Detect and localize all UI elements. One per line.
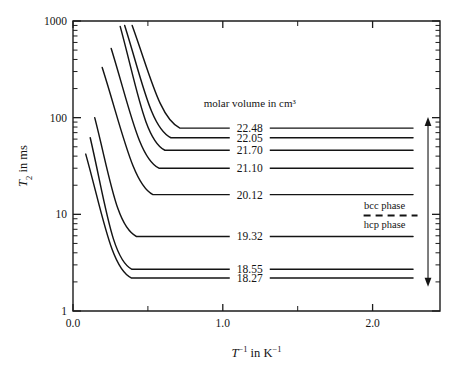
legend-title-text: molar volume in cm³	[204, 97, 297, 109]
y-axis-title: T2 in ms	[16, 145, 34, 187]
y-tick-label: 10	[56, 208, 68, 220]
bcc-phase-label: bcc phase	[364, 200, 405, 211]
x-tick-label: 2.0	[365, 317, 380, 329]
arrow-head-down-icon	[425, 278, 432, 287]
x-axis-title: T−1 in K−1	[231, 344, 281, 360]
series-label-18.27: 18.27	[237, 272, 263, 284]
legend-title: molar volume in cm³	[204, 97, 297, 109]
series-label-19.32: 19.32	[237, 230, 263, 242]
series-label-22.05: 22.05	[237, 132, 263, 144]
y-tick-label: 1	[61, 305, 67, 317]
curve-22.48	[132, 25, 413, 128]
t2-relaxation-log-plot: 11010010000.01.02.0 22.4822.0521.7021.10…	[0, 0, 461, 374]
axis-titles: T−1 in K−1T2 in ms	[16, 145, 282, 360]
x-tick-label: 0.0	[66, 317, 81, 329]
arrow-head-up-icon	[425, 117, 432, 126]
axis-tick-labels: 11010010000.01.02.0	[44, 15, 380, 329]
chart-figure: 11010010000.01.02.0 22.4822.0521.7021.10…	[0, 0, 461, 374]
series-label-21.70: 21.70	[237, 144, 263, 156]
x-tick-label: 1.0	[216, 317, 231, 329]
phase-annotations: bcc phasehcp phase	[364, 117, 432, 287]
y-tick-label: 1000	[44, 15, 67, 27]
hcp-phase-label: hcp phase	[364, 219, 406, 230]
y-tick-label: 100	[50, 112, 68, 124]
curve-22.05	[125, 25, 413, 137]
series-label-20.12: 20.12	[237, 189, 263, 201]
series-label-21.10: 21.10	[237, 162, 263, 174]
series-value-labels: 22.4822.0521.7021.1020.1219.3218.5518.27	[237, 122, 263, 284]
